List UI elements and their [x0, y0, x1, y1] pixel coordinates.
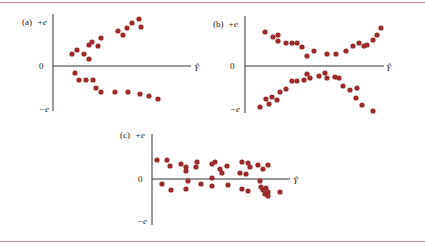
data-point: [354, 85, 359, 90]
data-point: [193, 164, 198, 169]
panel-c: (c) +e 0 −e Ŷ: [120, 130, 299, 226]
data-point: [155, 96, 160, 101]
panel-c-zero-label: 0: [138, 174, 143, 184]
panel-c-top-label: +e: [135, 130, 145, 140]
panel-a-zero-label: 0: [39, 61, 44, 71]
data-point: [185, 178, 190, 183]
data-point: [269, 94, 274, 99]
panel-a: (a) +e 0 −e Ŷ: [22, 14, 200, 114]
data-point: [209, 175, 214, 180]
data-point: [245, 188, 250, 193]
panel-b-tag: (b): [213, 19, 224, 29]
data-point: [239, 186, 244, 191]
data-point: [255, 162, 260, 167]
data-point: [237, 170, 242, 175]
data-point: [265, 193, 270, 198]
data-point: [69, 51, 74, 56]
data-point: [89, 39, 94, 44]
data-point: [86, 56, 91, 61]
data-point: [112, 89, 117, 94]
data-point: [83, 77, 88, 82]
data-point: [263, 96, 268, 101]
residual-plots-figure: (a) +e 0 −e Ŷ (b) +e 0 −e Ŷ (c) +e 0 −e …: [0, 0, 425, 250]
data-point: [289, 40, 294, 45]
panel-c-bottom-label: −e: [137, 216, 147, 226]
data-point: [301, 77, 306, 82]
data-point: [277, 89, 282, 94]
data-point: [90, 77, 95, 82]
data-point: [95, 43, 100, 48]
data-point: [260, 166, 265, 171]
panel-a-x-label: Ŷ: [194, 63, 200, 73]
data-point: [98, 35, 103, 40]
data-point: [120, 32, 125, 37]
panel-b-points: [257, 25, 383, 113]
data-point: [311, 48, 316, 53]
data-point: [274, 97, 279, 102]
data-point: [81, 51, 86, 56]
panel-a-points: [69, 16, 160, 101]
data-point: [307, 75, 312, 80]
data-point: [359, 102, 364, 107]
data-point: [194, 159, 199, 164]
data-point: [74, 47, 79, 52]
data-point: [154, 157, 159, 162]
panel-a-bottom-label: −e: [39, 104, 49, 114]
data-point: [343, 48, 348, 53]
data-point: [138, 24, 143, 29]
panel-c-x-label: Ŷ: [293, 176, 299, 186]
data-point: [243, 171, 248, 176]
data-point: [374, 32, 379, 37]
data-point: [136, 16, 141, 21]
data-point: [262, 29, 267, 34]
data-point: [115, 28, 120, 33]
data-point: [304, 53, 309, 58]
data-point: [224, 163, 229, 168]
data-point: [178, 161, 183, 166]
panel-c-tag: (c): [120, 130, 130, 140]
data-point: [336, 75, 341, 80]
data-point: [198, 181, 203, 186]
data-point: [167, 163, 172, 168]
panel-a-tag: (a): [22, 17, 32, 27]
data-point: [364, 42, 369, 47]
panel-b-top-label: +e: [228, 19, 238, 29]
data-point: [283, 40, 288, 45]
data-point: [340, 83, 345, 88]
data-point: [299, 44, 304, 49]
data-point: [183, 186, 188, 191]
data-point: [275, 32, 280, 37]
data-point: [347, 87, 352, 92]
data-point: [209, 183, 214, 188]
data-point: [159, 181, 164, 186]
data-point: [350, 43, 355, 48]
data-point: [124, 25, 129, 30]
panel-a-top-label: +e: [37, 17, 47, 27]
data-point: [247, 164, 252, 169]
data-point: [225, 182, 230, 187]
data-point: [322, 70, 327, 75]
data-point: [265, 162, 270, 167]
data-point: [168, 187, 173, 192]
data-point: [257, 178, 262, 183]
data-point: [137, 91, 142, 96]
data-point: [370, 108, 375, 113]
data-point: [294, 40, 299, 45]
data-point: [164, 157, 169, 162]
data-point: [277, 189, 282, 194]
data-point: [270, 34, 275, 39]
data-point: [294, 78, 299, 83]
data-point: [316, 73, 321, 78]
panel-c-points: [154, 157, 282, 198]
data-point: [283, 86, 288, 91]
data-point: [289, 78, 294, 83]
data-point: [239, 159, 244, 164]
data-point: [183, 168, 188, 173]
data-point: [93, 85, 98, 90]
data-point: [370, 37, 375, 42]
data-point: [146, 93, 151, 98]
data-point: [129, 20, 134, 25]
panel-b: (b) +e 0 −e Ŷ: [213, 16, 392, 114]
data-point: [257, 104, 262, 109]
data-point: [324, 75, 329, 80]
